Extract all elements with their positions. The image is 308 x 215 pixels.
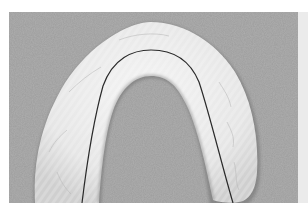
side-margin-strip bbox=[298, 12, 308, 203]
dental-arch-photo bbox=[9, 12, 298, 203]
photo-illustration bbox=[9, 12, 298, 203]
